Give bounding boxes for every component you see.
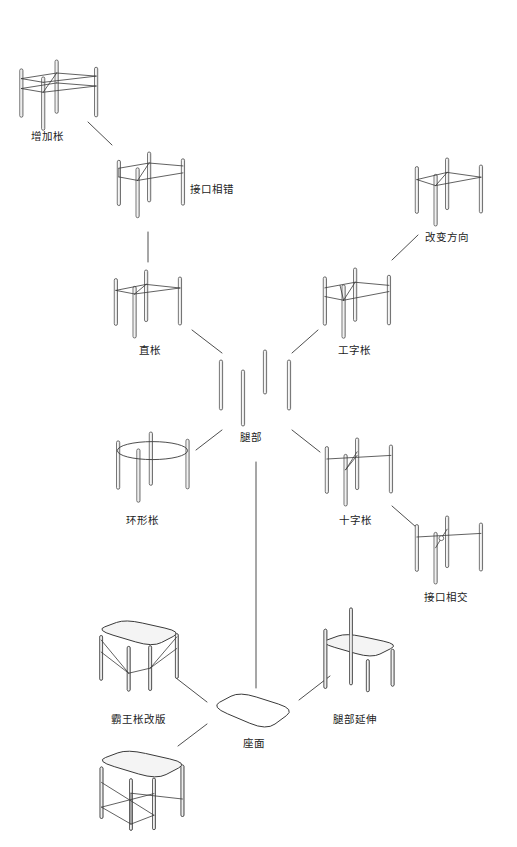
- figure-change-direction: [415, 158, 482, 226]
- label-leg-extension: 腿部延伸: [333, 714, 377, 725]
- figure-staggered-joint: [117, 152, 184, 218]
- figure-legs: [219, 350, 290, 426]
- label-cross-stretcher: 十字枨: [339, 515, 372, 526]
- edge-staggered-add: [88, 122, 112, 145]
- label-add-stretcher: 增加枨: [31, 131, 64, 142]
- label-straight-stretcher: 直枨: [139, 345, 161, 356]
- figure-cross-stretcher: [325, 438, 392, 506]
- figure-ring-stretcher: [117, 432, 190, 502]
- figure-i-stretcher: [323, 268, 390, 338]
- label-seat-surface: 座面: [243, 738, 265, 749]
- edge-seat-king: [176, 678, 207, 702]
- label-i-stretcher: 工字枨: [338, 345, 371, 356]
- edge-i-direction: [392, 235, 418, 260]
- edge-cross-intersect: [392, 506, 416, 527]
- edge-legs-cross: [292, 430, 320, 452]
- label-change-direction: 改变方向: [425, 232, 469, 243]
- edge-seat-xbrace: [178, 724, 207, 746]
- label-intersecting-joint: 接口相交: [424, 592, 468, 603]
- label-staggered-joint: 接口相错: [190, 184, 234, 195]
- figure-straight-stretcher: [114, 270, 181, 338]
- figure-x-brace-stool: [100, 751, 184, 830]
- label-legs: 腿部: [240, 432, 262, 443]
- figure-leg-extension: [324, 608, 394, 692]
- label-ring-stretcher: 环形枨: [126, 515, 159, 526]
- edge-legs-ring: [196, 430, 222, 450]
- edge-legs-i: [292, 330, 318, 353]
- figure-king-stretcher-revised: [100, 621, 178, 691]
- design-variation-diagram: [0, 0, 517, 847]
- figure-intersecting-joint: [415, 516, 482, 584]
- label-king-stretcher-revised: 霸王枨改版: [111, 714, 166, 725]
- figure-add-stretcher: [20, 60, 98, 130]
- figures-layer: [20, 60, 483, 830]
- figure-seat-surface: [217, 694, 290, 727]
- edge-legs-straight: [192, 330, 222, 353]
